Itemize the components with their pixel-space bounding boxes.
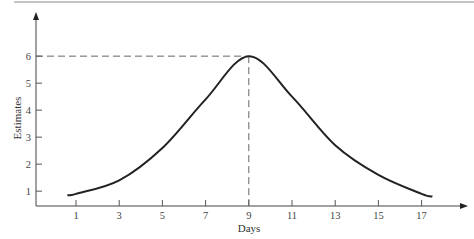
x-tick-label: 17 [416, 210, 427, 221]
x-tick-label: 5 [160, 210, 165, 221]
x-tick-label: 11 [287, 210, 297, 221]
x-tick-label: 1 [73, 210, 78, 221]
y-tick-label: 1 [26, 186, 31, 197]
x-axis-arrow-icon [460, 203, 468, 209]
y-tick-label: 5 [26, 78, 31, 89]
y-ticks: 123456 [26, 51, 42, 197]
x-tick-label: 3 [117, 210, 122, 221]
x-tick-label: 7 [203, 210, 208, 221]
peak-reference-lines [36, 56, 249, 206]
y-tick-label: 2 [26, 159, 31, 170]
chart: 123456 1357911131517 Days Estimates [0, 0, 474, 239]
y-axis-label: Estimates [11, 97, 23, 140]
y-tick-label: 6 [26, 51, 31, 62]
x-tick-label: 9 [246, 210, 251, 221]
y-axis-arrow-icon [33, 12, 39, 20]
axes [33, 12, 468, 209]
x-axis-label: Days [238, 222, 261, 234]
x-tick-label: 15 [373, 210, 384, 221]
x-ticks: 1357911131517 [73, 200, 426, 221]
x-tick-label: 13 [330, 210, 341, 221]
estimates-curve [67, 56, 432, 196]
y-tick-label: 4 [26, 105, 32, 116]
y-tick-label: 3 [26, 132, 31, 143]
